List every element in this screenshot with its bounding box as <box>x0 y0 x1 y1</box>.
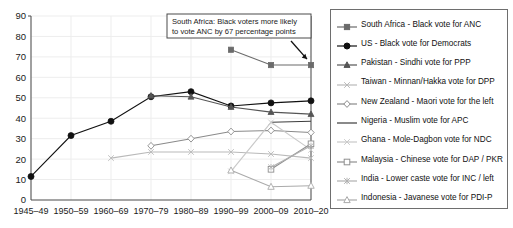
series-line <box>271 146 311 167</box>
legend-item-label: Pakistan - Sindhi vote for PPP <box>361 59 471 67</box>
legend-marker-icon <box>336 192 358 204</box>
legend-item-label: South Africa - Black vote for ANC <box>361 21 481 29</box>
data-point <box>228 47 233 52</box>
series-line <box>111 152 311 158</box>
x-tick-label: 2010–20 <box>293 206 328 216</box>
legend-item[interactable]: Indonesia - Javanese vote for PDI-P <box>336 189 503 208</box>
annotation-line-2: to vote ANC by 67 percentage points <box>172 27 296 36</box>
y-tick-label: 0 <box>21 194 26 205</box>
legend-item-label: Nigeria - Muslim vote for APC <box>361 117 468 125</box>
data-point <box>108 118 114 124</box>
y-tick-label: 20 <box>15 154 26 165</box>
legend-item[interactable]: New Zealand - Maori vote for the left <box>336 92 503 111</box>
series-line <box>271 121 311 122</box>
y-tick-label: 70 <box>15 51 26 62</box>
x-tick-label: 1990–99 <box>213 206 248 216</box>
legend-item-label: India - Lower caste vote for INC / left <box>361 175 494 183</box>
legend-marker-icon <box>336 115 358 127</box>
x-tick-label: 1980–89 <box>173 206 208 216</box>
legend-marker-icon <box>336 96 358 108</box>
x-tick-label: 1970–79 <box>133 206 168 216</box>
x-tick-label: 1950–59 <box>53 206 88 216</box>
legend-item-label: Ghana - Mole-Dagbon vote for NDC <box>361 136 492 144</box>
legend-marker-icon <box>336 38 358 50</box>
legend-item-label: New Zealand - Maori vote for the left <box>361 98 493 106</box>
x-tick-label: 2000–09 <box>253 206 288 216</box>
y-tick-label: 30 <box>15 133 26 144</box>
legend-item-label: Malaysia - Chinese vote for DAP / PKR <box>361 156 503 164</box>
data-point <box>148 142 154 149</box>
legend-marker-icon <box>336 19 358 31</box>
x-tick-label: 1960–69 <box>93 206 128 216</box>
data-point <box>308 62 313 67</box>
legend-item[interactable]: Ghana - Mole-Dagbon vote for NDC <box>336 131 503 150</box>
legend-item[interactable]: Pakistan - Sindhi vote for PPP <box>336 54 503 73</box>
legend-item[interactable]: Malaysia - Chinese vote for DAP / PKR <box>336 150 503 169</box>
annotation-line-1: South Africa: Black voters more likely <box>172 17 297 26</box>
line-chart: 01020304050607080901945–491950–591960–69… <box>0 0 330 228</box>
legend-marker-icon <box>336 77 358 89</box>
legend-item[interactable]: South Africa - Black vote for ANC <box>336 15 503 34</box>
legend-item[interactable]: US - Black vote for Democrats <box>336 34 503 53</box>
legend-item[interactable]: India - Lower caste vote for INC / left <box>336 169 503 188</box>
y-tick-label: 80 <box>15 31 26 42</box>
legend-item-label: Indonesia - Javanese vote for PDI-P <box>361 194 493 202</box>
legend-marker-icon <box>336 154 358 166</box>
legend-item-label: Taiwan - Minnan/Hakka vote for DPP <box>361 78 495 86</box>
chart-screenshot: 01020304050607080901945–491950–591960–69… <box>0 0 513 228</box>
data-point <box>28 173 34 179</box>
legend-item[interactable]: Nigeria - Muslim vote for APC <box>336 111 503 130</box>
legend-marker-icon <box>336 134 358 146</box>
chart-legend: South Africa - Black vote for ANCUS - Bl… <box>330 9 508 209</box>
data-point <box>308 98 314 104</box>
data-point <box>268 127 274 134</box>
y-tick-label: 90 <box>15 10 26 21</box>
legend-marker-icon <box>336 173 358 185</box>
y-tick-label: 10 <box>15 174 26 185</box>
data-point <box>308 129 314 136</box>
data-point <box>268 62 273 67</box>
data-point <box>228 128 234 135</box>
plot-area: 01020304050607080901945–491950–591960–69… <box>0 0 330 228</box>
x-tick-label: 1945–49 <box>13 206 48 216</box>
legend-item-label: US - Black vote for Democrats <box>361 40 471 48</box>
y-tick-label: 60 <box>15 72 26 83</box>
data-point <box>188 135 194 142</box>
data-point <box>268 100 274 106</box>
y-tick-label: 40 <box>15 113 26 124</box>
y-tick-label: 50 <box>15 92 26 103</box>
legend-marker-icon <box>336 57 358 69</box>
data-point <box>68 133 74 139</box>
legend-item[interactable]: Taiwan - Minnan/Hakka vote for DPP <box>336 73 503 92</box>
